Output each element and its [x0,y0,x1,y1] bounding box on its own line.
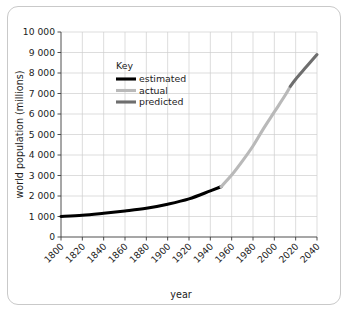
x-axis-tick-label: 1940 [191,241,215,265]
legend-label-predicted: predicted [139,96,184,107]
population-line-chart: 01 0002 0003 0004 0005 0006 0007 0008 00… [8,7,342,306]
y-axis-tick-label: 9 000 [29,47,55,58]
y-axis-tick-label: 10 000 [23,26,55,37]
x-axis-tick-label: 2020 [276,241,300,265]
y-axis-tick-label: 4 000 [29,149,55,160]
x-axis-tick-label: 1900 [148,241,172,265]
x-axis-tick-label: 1960 [212,241,236,265]
y-axis-tick-label: 7 000 [29,88,55,99]
y-axis-tick-label: 6 000 [29,108,55,119]
y-axis-tick-label: 0 [49,231,55,242]
y-axis-tick-label: 3 000 [29,170,55,181]
x-axis-tick-label: 2040 [298,241,322,265]
y-axis-tick-label: 1 000 [29,211,55,222]
x-axis-tick-label: 1980 [234,241,258,265]
series-line-estimated [61,187,221,217]
x-axis-tick-label: 1920 [170,241,194,265]
legend-label-actual: actual [139,85,168,96]
x-axis-tick-label: 1820 [63,241,87,265]
x-axis-title: year [170,289,191,300]
y-axis-title: world population (millions) [14,70,25,198]
y-axis-tick-label: 2 000 [29,190,55,201]
y-axis-tick-label: 8 000 [29,67,55,78]
x-axis-tick-label: 2000 [255,241,279,265]
y-axis-tick-label: 5 000 [29,129,55,140]
figure-card: 01 0002 0003 0004 0005 0006 0007 0008 00… [7,6,341,305]
x-axis-tick-label: 1840 [84,241,108,265]
x-axis-tick-label: 1860 [106,241,130,265]
x-axis-tick-label: 1800 [42,241,66,265]
legend-label-estimated: estimated [139,73,186,84]
legend-title: Key [116,60,133,71]
x-axis-tick-label: 1880 [127,241,151,265]
series-line-predicted [290,55,317,87]
